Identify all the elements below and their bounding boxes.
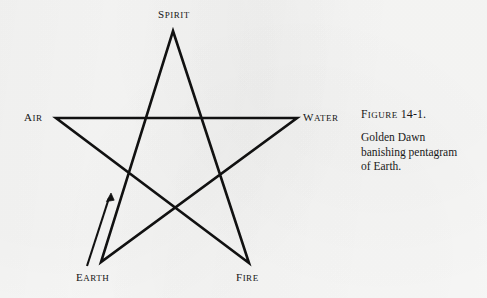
figure-caption-title-number: 14-1. — [398, 107, 427, 121]
pentagram-star-path — [56, 31, 297, 263]
caption-line-1: Golden Dawn — [361, 130, 479, 145]
figure-caption-body: Golden Dawn banishing pentagram of Earth… — [361, 130, 479, 174]
vertex-label-water-text: WATER — [303, 111, 338, 123]
vertex-label-fire: FIRE — [236, 271, 259, 285]
vertex-label-air-text: AIR — [24, 111, 42, 123]
pentagram-figure: SPIRIT AIR WATER EARTH FIRE — [0, 0, 340, 298]
figure-caption-title: FIGURE 14-1. — [361, 107, 479, 122]
vertex-label-water: WATER — [303, 111, 338, 125]
pentagram-drawing — [0, 0, 340, 298]
vertex-label-air: AIR — [24, 111, 42, 125]
figure-caption: FIGURE 14-1. Golden Dawn banishing penta… — [361, 107, 479, 174]
vertex-label-fire-text: FIRE — [236, 271, 259, 283]
caption-line-3: of Earth. — [361, 159, 479, 174]
caption-line-2: banishing pentagram — [361, 145, 479, 160]
vertex-label-spirit-initial: SPIRIT — [158, 8, 190, 20]
vertex-label-earth-text: EARTH — [76, 271, 109, 283]
vertex-label-earth: EARTH — [76, 271, 109, 285]
page-background: SPIRIT AIR WATER EARTH FIRE FIGURE 14-1.… — [0, 0, 487, 298]
vertex-label-spirit: SPIRIT — [158, 8, 190, 22]
figure-caption-title-label: FIGURE — [361, 107, 398, 121]
